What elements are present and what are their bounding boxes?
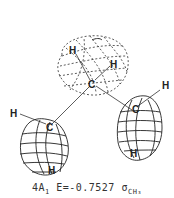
- atom-h-right: H: [162, 80, 169, 91]
- state-subscript: 1: [45, 188, 50, 196]
- atom-h-top-2: H: [110, 59, 117, 70]
- left-lobe: [20, 119, 68, 175]
- atom-h-top-1: H: [69, 45, 76, 56]
- atom-c-left: C: [46, 122, 53, 133]
- top-lobe-cap: [92, 39, 102, 41]
- state-label: 4A: [32, 182, 45, 193]
- atom-c-right: C: [132, 104, 139, 115]
- orbital-caption: 4A1 E=-0.7527 σCH₃: [0, 182, 174, 196]
- atom-c-top: C: [88, 79, 95, 90]
- atom-h-left-bottom: H: [48, 165, 55, 176]
- orbital-diagram: H H C H C H H C H: [0, 0, 174, 198]
- energy-value: E=-0.7527: [56, 182, 115, 193]
- right-lobe: [117, 96, 162, 161]
- atom-h-left: H: [10, 108, 17, 119]
- atom-h-right-bottom: H: [130, 148, 137, 159]
- orbital-subscript: CH₃: [128, 188, 142, 196]
